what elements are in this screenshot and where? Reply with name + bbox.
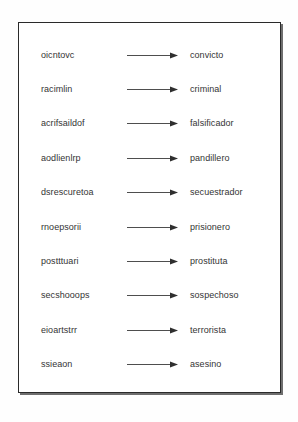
- word-pair-list: oicntovcconvictoracimlincriminalacrifsai…: [19, 23, 280, 392]
- word-pair-row: eioartstrrterrorista: [19, 313, 280, 347]
- scrambled-word: aodlienlrp: [41, 153, 125, 164]
- scrambled-word: secshooops: [41, 290, 125, 301]
- solution-word: pandillero: [181, 153, 280, 164]
- scrambled-word: rnoepsorii: [41, 222, 125, 233]
- scrambled-word: eioartstrr: [41, 325, 125, 336]
- worksheet-frame: oicntovcconvictoracimlincriminalacrifsai…: [18, 22, 281, 393]
- right-arrow-icon: [125, 85, 181, 94]
- right-arrow-icon: [125, 326, 181, 335]
- solution-word: asesino: [181, 359, 280, 370]
- solution-word: criminal: [181, 84, 280, 95]
- word-pair-row: rnoepsoriiprisionero: [19, 210, 280, 244]
- right-arrow-icon: [125, 188, 181, 197]
- right-arrow-icon: [125, 154, 181, 163]
- right-arrow-icon: [125, 223, 181, 232]
- page-canvas: oicntovcconvictoracimlincriminalacrifsai…: [0, 0, 298, 422]
- word-pair-row: racimlincriminal: [19, 72, 280, 106]
- scrambled-word: postttuari: [41, 256, 125, 267]
- scrambled-word: racimlin: [41, 84, 125, 95]
- solution-word: falsificador: [181, 118, 280, 129]
- right-arrow-icon: [125, 257, 181, 266]
- solution-word: terrorista: [181, 325, 280, 336]
- word-pair-row: aodlienlrppandillero: [19, 141, 280, 175]
- word-pair-row: ssieaonasesino: [19, 348, 280, 382]
- word-pair-row: secshooopssospechoso: [19, 279, 280, 313]
- scrambled-word: oicntovc: [41, 50, 125, 61]
- solution-word: sospechoso: [181, 290, 280, 301]
- scrambled-word: ssieaon: [41, 359, 125, 370]
- word-pair-row: postttuariprostituta: [19, 244, 280, 278]
- solution-word: convicto: [181, 50, 280, 61]
- word-pair-row: oicntovcconvicto: [19, 38, 280, 72]
- right-arrow-icon: [125, 51, 181, 60]
- solution-word: prisionero: [181, 222, 280, 233]
- right-arrow-icon: [125, 119, 181, 128]
- scrambled-word: acrifsaildof: [41, 118, 125, 129]
- right-arrow-icon: [125, 360, 181, 369]
- right-arrow-icon: [125, 291, 181, 300]
- scrambled-word: dsrescuretoa: [41, 187, 125, 198]
- solution-word: secuestrador: [181, 187, 280, 198]
- word-pair-row: acrifsaildoffalsificador: [19, 107, 280, 141]
- solution-word: prostituta: [181, 256, 280, 267]
- word-pair-row: dsrescuretoasecuestrador: [19, 176, 280, 210]
